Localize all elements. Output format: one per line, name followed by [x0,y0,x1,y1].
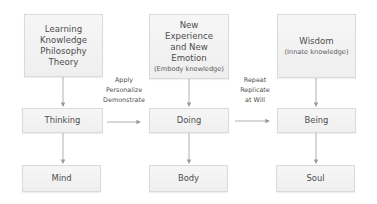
new-experience-box: New Experience and New Emotion (Embody k… [149,14,229,79]
diagram-canvas: Learning Knowledge Philosophy Theory Thi… [0,0,377,204]
box-line: Theory [49,57,79,68]
being-label: Being [305,115,329,126]
being-box: Being [277,108,356,133]
learning-knowledge-box: Learning Knowledge Philosophy Theory [24,14,103,77]
doing-to-being-label: Repeat Replicate at Will [232,75,278,105]
box-line: Emotion [171,53,207,64]
box-line: Philosophy [40,46,86,57]
edge-label-line: Demonstrate [101,95,147,105]
box-line: New [180,20,199,31]
body-label: Body [178,173,199,184]
box-line: Knowledge [40,35,87,46]
box-line: Learning [45,24,82,35]
edge-label-line: at Will [232,95,278,105]
thinking-label: Thinking [45,115,81,126]
doing-label: Doing [177,115,202,126]
mind-label: Mind [51,173,71,184]
thinking-box: Thinking [22,108,103,133]
box-line: and New [170,42,208,53]
body-box: Body [149,165,228,192]
box-subtitle: (Embody knowledge) [154,64,224,74]
box-line: Experience [165,31,213,42]
edge-label-line: Replicate [232,85,278,95]
soul-label: Soul [306,173,324,184]
soul-box: Soul [276,165,355,192]
edge-label-line: Personalize [101,85,147,95]
doing-box: Doing [149,108,229,133]
mind-box: Mind [22,165,101,192]
box-line: Wisdom [299,36,333,47]
edge-label-line: Apply [101,75,147,85]
edge-label-line: Repeat [232,75,278,85]
wisdom-box: Wisdom (Innate knowledge) [277,14,356,78]
box-subtitle: (Innate knowledge) [285,47,349,57]
thinking-to-doing-label: Apply Personalize Demonstrate [101,75,147,105]
